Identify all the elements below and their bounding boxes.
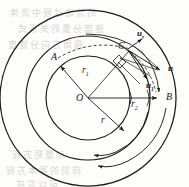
label-vector-u: u [168, 64, 173, 73]
label-center-o: O [76, 93, 83, 103]
figure-container: 的流动过程中流体 速度分量的关系式 圆周方向分速度 动量矩方程 得到的基本方程 … [0, 0, 189, 187]
diagram-canvas [0, 0, 189, 187]
label-radius-r2-sub: 2 [135, 105, 138, 111]
label-radius-r1: r1 [82, 66, 89, 78]
label-point-a: A [51, 52, 57, 62]
label-point-c: C [118, 41, 125, 51]
label-point-b: B [166, 92, 172, 102]
label-vector-ur: ur [137, 29, 144, 40]
label-vector-u1-sub: 1 [151, 86, 154, 92]
label-radius-r1-sub: 1 [86, 71, 89, 77]
label-radius-r: r [101, 116, 105, 126]
label-radius-r2: r2 [131, 100, 138, 112]
label-vector-ur-sub: r [142, 34, 144, 40]
radius-line-r [88, 98, 124, 131]
vector-u [128, 50, 160, 70]
label-vector-u1: u1 [146, 81, 154, 92]
